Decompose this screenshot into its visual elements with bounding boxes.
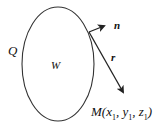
point-m-label: M(x1, y1, z1) bbox=[91, 105, 152, 122]
boundary-label-q: Q bbox=[8, 44, 17, 57]
radius-vector-label: r bbox=[111, 52, 115, 63]
point-name: M bbox=[91, 104, 102, 119]
region-label-w: W bbox=[51, 60, 60, 71]
point-close-paren: ) bbox=[148, 104, 152, 119]
normal-vector-label: n bbox=[114, 20, 120, 31]
normal-vector-arrow bbox=[89, 26, 104, 32]
